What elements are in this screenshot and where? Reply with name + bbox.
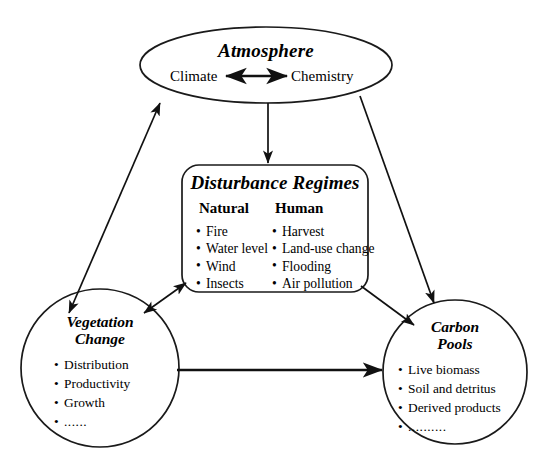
disturbance-title: Disturbance Regimes: [182, 172, 368, 194]
carbon-title-line1: Carbon: [385, 318, 525, 335]
atmosphere-climate-label: Climate: [170, 68, 218, 85]
disturbance-column-heading-natural: Natural: [199, 200, 249, 217]
edge-disturbance-vegetation: [144, 283, 186, 313]
disturbance-human-list: Harvest Land-use change Flooding Air pol…: [272, 223, 374, 293]
list-item: Soil and detritus: [398, 379, 501, 398]
list-item: Wind: [196, 258, 268, 275]
disturbance-natural-list: Fire Water level Wind Insects: [196, 223, 268, 293]
list-item: Distribution: [54, 355, 130, 374]
list-item: Flooding: [272, 258, 374, 275]
vegetation-title-line1: Vegetation: [30, 313, 170, 330]
list-item: Water level: [196, 240, 268, 257]
carbon-title-line2: Pools: [385, 335, 525, 352]
list-item: ..........: [398, 417, 501, 436]
atmosphere-node-shape: [140, 27, 392, 103]
list-item: Productivity: [54, 374, 130, 393]
disturbance-column-heading-human: Human: [275, 200, 323, 217]
diagram-canvas: Atmosphere Climate Chemistry Disturbance…: [0, 0, 546, 460]
vegetation-list: Distribution Productivity Growth ......: [54, 355, 130, 431]
list-item: Harvest: [272, 223, 374, 240]
vegetation-title-line2: Change: [30, 330, 170, 347]
list-item: Derived products: [398, 398, 501, 417]
list-item: Land-use change: [272, 240, 374, 257]
list-item: Live biomass: [398, 360, 501, 379]
list-item: ......: [54, 412, 130, 431]
list-item: Growth: [54, 393, 130, 412]
edge-atmosphere-vegetation: [69, 103, 160, 313]
list-item: Fire: [196, 223, 268, 240]
list-item: Air pollution: [272, 275, 374, 292]
carbon-list: Live biomass Soil and detritus Derived p…: [398, 360, 501, 436]
atmosphere-chemistry-label: Chemistry: [291, 68, 354, 85]
list-item: Insects: [196, 275, 268, 292]
atmosphere-title: Atmosphere: [140, 40, 392, 61]
